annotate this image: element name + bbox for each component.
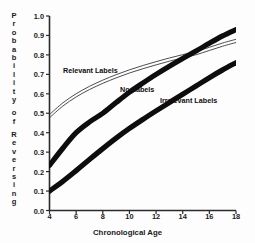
x-axis-tick-label: 16 [200, 212, 218, 221]
x-axis-tick-label: 6 [67, 212, 85, 221]
series-annotation-no-labels: No Labels [120, 85, 154, 94]
x-axis-tick-label: 14 [174, 212, 192, 221]
x-axis-tick-label: 18 [227, 212, 245, 221]
x-axis-tick-label: 4 [41, 212, 59, 221]
x-axis-tick-labels: 4681012141618 [0, 212, 255, 224]
chart-figure: ProbabilityofReversing 0.00.10.20.30.40.… [0, 0, 255, 243]
series-annotation-irrelevant-labels: Irrelevant Labels [160, 96, 217, 105]
x-axis-tick-label: 10 [120, 212, 138, 221]
series-annotation-relevant-labels: Relevant Labels [63, 66, 118, 75]
x-axis-tick-label: 12 [147, 212, 165, 221]
plot-area [0, 0, 255, 243]
x-axis-tick-label: 8 [94, 212, 112, 221]
x-axis-title: Chronological Age [0, 228, 255, 237]
